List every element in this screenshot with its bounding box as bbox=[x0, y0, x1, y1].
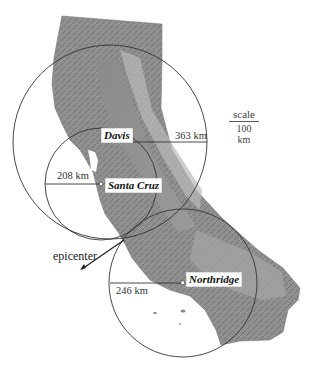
davis-label: Davis bbox=[101, 128, 133, 143]
epicenter-arrow-tail bbox=[80, 264, 86, 270]
northridge-station-marker bbox=[181, 281, 185, 285]
channel-island bbox=[179, 323, 181, 325]
channel-island bbox=[153, 312, 157, 314]
scale-word: scale bbox=[229, 108, 259, 122]
santa-cruz-station-marker bbox=[99, 182, 103, 186]
scale-value: 100 km bbox=[229, 122, 259, 145]
santa-cruz-label: Santa Cruz bbox=[105, 178, 162, 193]
davis-distance-label: 363 km bbox=[175, 131, 207, 142]
epicenter-label: epicenter bbox=[53, 250, 97, 262]
northridge-label: Northridge bbox=[186, 272, 242, 287]
scale-legend: scale 100 km bbox=[229, 108, 259, 145]
channel-island bbox=[181, 310, 186, 313]
northridge-distance-label: 246 km bbox=[116, 286, 148, 297]
santa-cruz-distance-label: 208 km bbox=[57, 171, 89, 182]
